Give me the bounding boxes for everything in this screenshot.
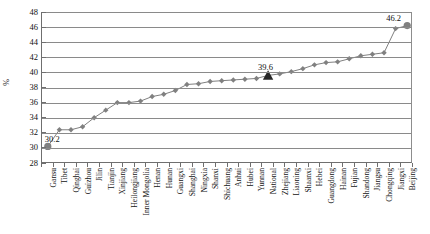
x-axis-tick [400,163,401,167]
x-axis-tick [203,163,204,167]
x-axis-tick [227,163,228,167]
y-tick-label: 44 [16,38,38,47]
x-category-label: Guizhou [85,168,93,194]
x-axis-tick [389,163,390,167]
gridline [42,27,411,28]
x-category-label: Hebei [316,168,324,186]
x-axis-tick [354,163,355,167]
x-axis-tick [76,163,77,167]
marker-diamond [196,81,201,86]
y-axis-tick [42,72,46,73]
y-axis-tick [42,102,46,103]
x-axis-tick [169,163,170,167]
x-category-label: Liaoning [293,168,301,195]
x-axis-tick [250,163,251,167]
y-tick-label: 32 [16,128,38,137]
marker-diamond [149,94,154,99]
y-axis-tick [42,87,46,88]
gridline [42,118,411,119]
x-axis-tick [192,163,193,167]
marker-diamond [103,107,108,112]
x-category-label: Yunnan [258,168,266,191]
x-category-label: Fujian [351,168,359,187]
x-category-label: Jiangxi [398,168,406,190]
y-tick-label: 28 [16,159,38,168]
data-point-label: 39.6 [258,62,273,72]
y-axis-tick [42,147,46,148]
x-axis-tick [319,163,320,167]
marker-diamond [219,78,224,83]
y-axis-tick [42,132,46,133]
y-axis-tick [42,27,46,28]
x-axis-tick [180,163,181,167]
x-axis-tick [53,163,54,167]
plot-area [41,12,412,163]
x-category-label: Shandong [363,168,371,198]
x-category-label: Shanxi [212,168,220,189]
y-axis-tick [42,42,46,43]
y-axis-tick [42,57,46,58]
marker-diamond [173,88,178,93]
marker-diamond [231,77,236,82]
x-category-label: Shaanxi [305,168,313,192]
marker-diamond [242,76,247,81]
x-axis-tick [296,163,297,167]
x-category-label: Xinjiang [119,168,127,195]
y-tick-label: 42 [16,53,38,62]
x-category-label: Beijing [409,168,417,190]
y-axis-tick [42,12,46,13]
gridline [42,72,411,73]
y-tick-label: 36 [16,98,38,107]
x-axis-tick [41,163,42,167]
x-category-label: Henan [154,168,162,188]
x-axis-category-labels: GansuTibetQinghaiGuizhouJilinTianjinXinj… [41,168,412,234]
marker-diamond [161,92,166,97]
y-tick-label: 30 [16,143,38,152]
x-axis-tick [331,163,332,167]
gridline [42,133,411,134]
marker-endpoint [404,22,411,29]
data-point-label: 30.2 [45,134,60,144]
x-axis-tick [342,163,343,167]
x-axis-tick [284,163,285,167]
marker-diamond [68,127,73,132]
gridline [42,42,411,43]
x-category-label: National [270,168,278,194]
x-axis-tick [366,163,367,167]
x-category-label: Chongqing [386,168,394,202]
gridline [42,103,411,104]
y-axis-tick-labels: 4846444240383634323028 [16,0,38,234]
y-tick-label: 40 [16,68,38,77]
gridline [42,12,411,13]
x-category-label: Tianjin [108,168,116,190]
x-category-label: Anhui [235,168,243,187]
gridline [42,88,411,89]
marker-diamond [300,66,305,71]
x-axis-tick [157,163,158,167]
x-axis-tick [308,163,309,167]
x-category-label: Hunan [166,168,174,188]
data-point-label: 46.2 [386,13,401,23]
y-tick-label: 34 [16,113,38,122]
x-category-label: Qinghai [73,168,81,192]
x-axis-tick [134,163,135,167]
marker-diamond [370,52,375,57]
y-tick-label: 38 [16,83,38,92]
x-category-label: Jilin [96,168,104,181]
x-axis-tick [87,163,88,167]
x-axis-tick [273,163,274,167]
x-category-label: Zhejiang [282,168,290,195]
x-category-label: Jiangsu [374,168,382,191]
chart-container: % 4846444240383634323028 GansuTibetQingh… [0,0,430,234]
marker-diamond [207,79,212,84]
y-axis-tick [42,117,46,118]
x-category-label: Hubei [247,168,255,187]
marker-diamond [312,62,317,67]
x-category-label: Shanghai [189,168,197,196]
x-axis-tick [412,163,413,167]
x-category-label: Hainan [340,168,348,190]
x-axis-tick [238,163,239,167]
marker-diamond [184,82,189,87]
y-axis-title: % [2,79,11,86]
x-axis-tick [261,163,262,167]
